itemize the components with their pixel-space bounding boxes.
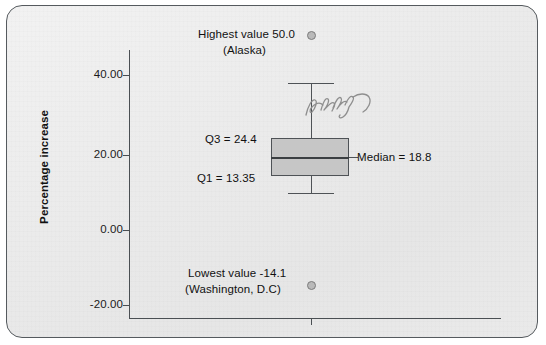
y-tick-neg20: -20.00: [45, 298, 123, 312]
lower-whisker-stem: [311, 176, 312, 194]
y-tick-mark-0: [123, 230, 129, 231]
lower-whisker-cap: [288, 193, 334, 194]
annotation-median: Median = 18.8: [357, 151, 432, 163]
y-axis-title: Percentage increase: [38, 92, 50, 242]
y-axis-line: [129, 50, 130, 319]
figure-card: Percentage increase 40.00 20.00 0.00 -20…: [6, 5, 538, 338]
median-line: [271, 157, 349, 159]
y-tick-20: 20.00: [45, 148, 123, 162]
annotation-lowest-state: (Washington, D.C): [185, 283, 281, 295]
x-axis-tick: [311, 319, 312, 325]
y-tick-mark-20: [123, 155, 129, 156]
y-tick-mark-neg20: [123, 305, 129, 306]
y-tick-label-20: 20.00: [53, 148, 123, 160]
outlier-marker-low: [307, 281, 316, 290]
annotation-highest-state: (Alaska): [223, 44, 266, 56]
annotation-q3: Q3 = 24.4: [205, 133, 257, 145]
annotation-lowest-value: Lowest value -14.1: [188, 267, 286, 279]
y-tick-label-0: 0.00: [53, 223, 123, 235]
y-tick-label-40: 40.00: [53, 68, 123, 80]
annotation-q1: Q1 = 13.35: [197, 172, 255, 184]
y-tick-0: 0.00: [45, 223, 123, 237]
boxplot-chart: Percentage increase 40.00 20.00 0.00 -20…: [7, 6, 538, 338]
upper-whisker-cap: [288, 83, 334, 84]
annotation-highest-value: Highest value 50.0: [198, 28, 295, 40]
y-tick-label-neg20: -20.00: [53, 298, 123, 310]
outlier-marker-high: [307, 31, 316, 40]
y-tick-mark-40: [123, 75, 129, 76]
upper-whisker-stem: [311, 84, 312, 138]
y-tick-40: 40.00: [45, 68, 123, 82]
x-axis-line: [129, 318, 501, 319]
handwritten-note-icon: [303, 88, 375, 128]
